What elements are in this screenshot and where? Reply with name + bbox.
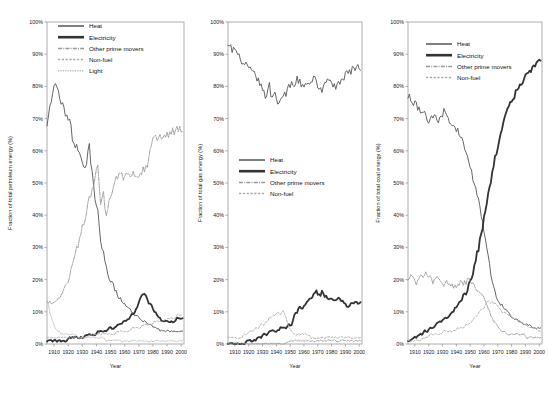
legend-label: Electricity: [270, 168, 297, 175]
y-tick-label: 40%: [393, 212, 404, 218]
x-axis-title: Year: [469, 363, 480, 369]
y-tick-label: 30%: [393, 244, 404, 250]
x-tick-label: 1950: [464, 349, 476, 355]
x-tick-label: 1940: [91, 349, 103, 355]
legend-label: Non-fuel: [457, 74, 480, 81]
plot-frame: [408, 22, 542, 344]
y-tick-label: 20%: [32, 277, 43, 283]
x-axis-title: Year: [110, 363, 121, 369]
plot-frame: [47, 22, 184, 344]
y-tick-label: 90%: [213, 51, 224, 57]
x-tick-label: 1990: [340, 349, 352, 355]
panel-coal: 0%10%20%30%40%50%60%70%80%90%100%1910192…: [368, 0, 548, 398]
y-axis-title: Fraction of total coal energy (%): [375, 143, 381, 222]
chart-petroleum: 0%10%20%30%40%50%60%70%80%90%100%1910192…: [0, 0, 190, 398]
y-tick-label: 100%: [29, 19, 43, 25]
y-tick-label: 100%: [390, 19, 404, 25]
y-tick-label: 100%: [210, 19, 224, 25]
x-tick-label: 1980: [147, 349, 159, 355]
y-tick-label: 0%: [396, 341, 404, 347]
y-tick-label: 70%: [213, 116, 224, 122]
y-tick-label: 50%: [32, 180, 43, 186]
legend-label: Heat: [89, 22, 102, 29]
legend-label: Other prime movers: [457, 63, 512, 70]
x-tick-label: 1970: [492, 349, 504, 355]
y-tick-label: 50%: [213, 180, 224, 186]
chart-coal: 0%10%20%30%40%50%60%70%80%90%100%1910192…: [368, 0, 548, 398]
x-tick-label: 1980: [506, 349, 518, 355]
y-tick-label: 60%: [393, 148, 404, 154]
x-tick-label: 1910: [48, 349, 60, 355]
x-tick-label: 2000: [533, 349, 545, 355]
x-tick-label: 1980: [326, 349, 338, 355]
x-tick-label: 1960: [119, 349, 131, 355]
series-line: [47, 84, 183, 332]
x-tick-label: 1920: [423, 349, 435, 355]
legend-label: Non-fuel: [270, 190, 293, 197]
legend-label: Light: [89, 67, 103, 74]
x-tick-label: 1970: [312, 349, 324, 355]
figure-panels: 0%10%20%30%40%50%60%70%80%90%100%1910192…: [0, 0, 548, 398]
y-tick-label: 60%: [32, 148, 43, 154]
y-tick-label: 30%: [213, 244, 224, 250]
y-tick-label: 80%: [213, 83, 224, 89]
y-tick-label: 80%: [393, 83, 404, 89]
legend-label: Electricity: [457, 52, 484, 59]
y-tick-label: 20%: [213, 277, 224, 283]
x-tick-label: 1920: [243, 349, 255, 355]
x-tick-label: 1960: [478, 349, 490, 355]
x-tick-label: 1950: [105, 349, 117, 355]
y-tick-label: 0%: [35, 341, 43, 347]
legend-label: Other prime movers: [270, 179, 325, 186]
x-tick-label: 1930: [77, 349, 89, 355]
x-tick-label: 1920: [62, 349, 74, 355]
x-axis-title: Year: [289, 363, 300, 369]
x-tick-label: 1970: [133, 349, 145, 355]
legend-label: Electricity: [89, 34, 116, 41]
series-line: [228, 45, 361, 104]
x-tick-label: 1990: [520, 349, 532, 355]
x-tick-label: 1950: [284, 349, 296, 355]
x-tick-label: 2000: [175, 349, 187, 355]
y-tick-label: 70%: [32, 116, 43, 122]
legend-label: Heat: [270, 156, 283, 163]
series-line: [408, 301, 541, 342]
series-line: [408, 94, 541, 329]
x-tick-label: 1940: [271, 349, 283, 355]
y-tick-label: 20%: [393, 277, 404, 283]
panel-petroleum: 0%10%20%30%40%50%60%70%80%90%100%1910192…: [0, 0, 190, 398]
y-tick-label: 10%: [213, 309, 224, 315]
y-tick-label: 10%: [393, 309, 404, 315]
y-axis-title: Fraction of total petroleum energy (%): [7, 136, 13, 230]
legend-label: Non-fuel: [89, 56, 112, 63]
x-tick-label: 1930: [257, 349, 269, 355]
y-tick-label: 40%: [32, 212, 43, 218]
x-tick-label: 1960: [298, 349, 310, 355]
y-tick-label: 70%: [393, 116, 404, 122]
legend-label: Other prime movers: [89, 45, 144, 52]
y-axis-title: Fraction of total gas energy (%): [197, 144, 203, 222]
series-line: [47, 314, 183, 339]
y-tick-label: 80%: [32, 83, 43, 89]
series-line: [408, 272, 541, 339]
x-tick-label: 1930: [437, 349, 449, 355]
chart-gas: 0%10%20%30%40%50%60%70%80%90%100%1910192…: [190, 0, 368, 398]
y-tick-label: 90%: [32, 51, 43, 57]
x-tick-label: 1910: [409, 349, 421, 355]
legend-label: Heat: [457, 40, 470, 47]
y-tick-label: 30%: [32, 244, 43, 250]
panel-gas: 0%10%20%30%40%50%60%70%80%90%100%1910192…: [190, 0, 368, 398]
y-tick-label: 0%: [216, 341, 224, 347]
y-tick-label: 40%: [213, 212, 224, 218]
y-tick-label: 10%: [32, 309, 43, 315]
series-line: [228, 290, 361, 344]
series-line: [408, 60, 541, 341]
y-tick-label: 60%: [213, 148, 224, 154]
y-tick-label: 50%: [393, 180, 404, 186]
x-tick-label: 1990: [161, 349, 173, 355]
x-tick-label: 1940: [451, 349, 463, 355]
x-tick-label: 2000: [353, 349, 365, 355]
y-tick-label: 90%: [393, 51, 404, 57]
series-line: [47, 126, 183, 304]
x-tick-label: 1910: [229, 349, 241, 355]
